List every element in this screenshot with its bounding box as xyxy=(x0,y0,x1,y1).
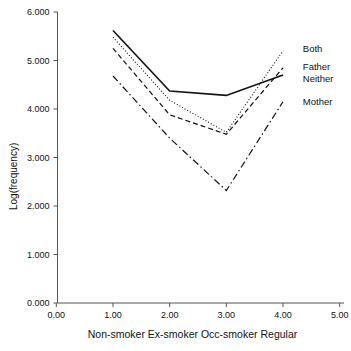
y-tick-label: 1.000 xyxy=(27,250,50,260)
series-lines xyxy=(113,30,283,190)
y-axis-title: Log(frequency) xyxy=(8,143,19,210)
x-tick-label: 3.00 xyxy=(218,310,236,320)
y-tick-label: 2.000 xyxy=(27,201,50,211)
y-tick-label: 4.000 xyxy=(27,104,50,114)
legend-label-both: Both xyxy=(303,43,323,54)
y-tick-label: 3.000 xyxy=(27,153,50,163)
legend-label-father: Father xyxy=(303,61,330,72)
legend-label-neither: Neither xyxy=(303,73,334,84)
x-tick-label: 2.00 xyxy=(161,310,179,320)
x-tick-label: 5.00 xyxy=(331,310,349,320)
y-tick-label: 0.000 xyxy=(27,298,50,308)
x-tick-label: 4.00 xyxy=(274,310,292,320)
legend-label-mother: Mother xyxy=(303,96,333,107)
chart-container: 0.0001.0002.0003.0004.0005.0006.000 0.00… xyxy=(0,0,351,351)
x-axis-title: Non-smoker Ex-smoker Occ-smoker Regular xyxy=(40,328,345,340)
line-chart-svg: 0.0001.0002.0003.0004.0005.0006.000 0.00… xyxy=(0,0,351,351)
x-tick-label: 0.00 xyxy=(48,310,66,320)
x-axis-ticks: 0.001.002.003.004.005.00 xyxy=(48,303,349,320)
y-tick-label: 5.000 xyxy=(27,56,50,66)
series-line-father xyxy=(113,48,283,134)
series-annotations: BothFatherNeitherMother xyxy=(303,43,334,107)
series-line-neither xyxy=(113,30,283,95)
y-axis-ticks: 0.0001.0002.0003.0004.0005.0006.000 xyxy=(27,7,58,308)
y-tick-label: 6.000 xyxy=(27,7,50,17)
x-tick-label: 1.00 xyxy=(104,310,122,320)
